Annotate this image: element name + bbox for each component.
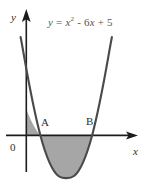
equation-label: y = x2 - 6x + 5 — [48, 17, 113, 28]
equation-equals: = — [53, 16, 65, 28]
equation-minus-six: - 6 — [74, 16, 89, 28]
point-b-label: B — [86, 116, 93, 127]
point-a-label: A — [41, 117, 49, 128]
origin-label: 0 — [10, 142, 16, 153]
equation-constant: + 5 — [95, 16, 113, 28]
y-axis-label: y — [11, 12, 16, 23]
shaded-region-above-axis — [26, 109, 40, 135]
math-figure: y = x2 - 6x + 5 y x 0 A B — [0, 0, 145, 182]
x-axis-label: x — [133, 146, 138, 157]
